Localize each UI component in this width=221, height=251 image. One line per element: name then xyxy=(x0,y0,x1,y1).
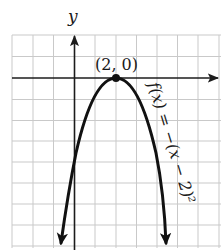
vertex-label: (2, 0) xyxy=(95,55,138,74)
y-axis-label: y xyxy=(67,6,78,26)
parabola-graph: y (2, 0) f(x) = −(x − 2)² xyxy=(0,0,221,251)
vertex-point xyxy=(112,74,120,82)
parabola-curve xyxy=(61,78,116,243)
